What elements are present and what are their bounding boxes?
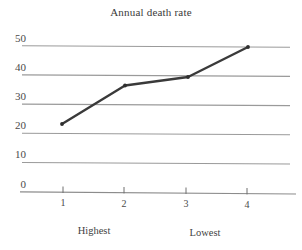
- gridline-10: [22, 163, 290, 165]
- data-point-1: [60, 122, 64, 126]
- y-tick-label-40: 40: [0, 62, 26, 73]
- gridline-30: [22, 104, 290, 106]
- x-axis-line: [20, 192, 296, 194]
- y-tick-label-10: 10: [0, 149, 26, 160]
- x-group-label-lowest: Lowest: [170, 228, 240, 239]
- x-tick-label-3: 3: [176, 199, 196, 209]
- gridlines: [22, 46, 290, 164]
- chart-plot-area: [0, 0, 302, 250]
- x-tick-label-2: 2: [114, 199, 134, 209]
- y-tick-label-50: 50: [0, 33, 26, 44]
- data-point-4: [246, 45, 250, 49]
- data-point-markers: [60, 45, 250, 126]
- x-tick-label-4: 4: [237, 200, 257, 210]
- data-point-2: [123, 84, 127, 88]
- y-tick-label-20: 20: [0, 120, 26, 131]
- y-tick-label-30: 30: [0, 91, 26, 102]
- x-group-label-highest: Highest: [59, 226, 129, 237]
- gridline-40: [22, 75, 290, 77]
- y-tick-label-0: 0: [0, 179, 26, 190]
- chart-container: Annual death rate 50 40 30 20 10 0 1 2: [0, 0, 302, 250]
- data-point-3: [186, 75, 190, 79]
- data-line-annual-death-rate: [62, 47, 248, 124]
- gridline-20: [22, 133, 290, 135]
- x-tick-label-1: 1: [53, 198, 73, 208]
